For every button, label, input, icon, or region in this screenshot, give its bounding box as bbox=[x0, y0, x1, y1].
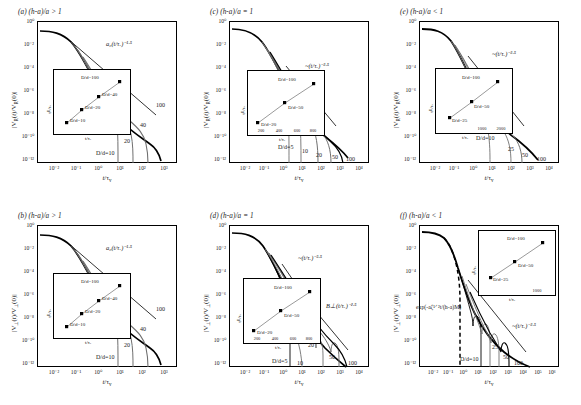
panel-e-ytick-0: 10⁰ bbox=[395, 18, 416, 24]
panel-e-inset-point-0: D/d=25 bbox=[452, 118, 467, 123]
panel-c-ytick-6: 10⁻¹² bbox=[205, 156, 226, 162]
panel-a-xtick-3: 10¹ bbox=[109, 165, 131, 171]
panel-f-plot: D/d=25 D/d=50 D/d=100 τᴰ/τᵥ t/τᵥ 1000 ex… bbox=[419, 225, 559, 367]
panel-b-power-label: a₀(t/τᵥ)⁻¹·⁵ bbox=[106, 244, 132, 252]
panel-c-plot: D/d=20 D/d=50 D/d=100 τᴰ/τᵥ t/τᵥ 200 400… bbox=[229, 21, 369, 163]
panel-e-inset-xtick-0: 1000 bbox=[474, 126, 490, 131]
panel-d-inset-xtick-0: 200 bbox=[250, 336, 264, 341]
panel-e-xtick-6: 10⁴ bbox=[538, 165, 560, 171]
panel-c-inset-xtick-2: 600 bbox=[290, 128, 304, 133]
panel-b-plot: D/d=10 D/d=20 D/d=40 D/d=100 τᴰ/τᵥ t/τᵥ … bbox=[37, 225, 177, 367]
panel-a-inset-point-3: D/d=100 bbox=[81, 75, 99, 80]
panel-a-inset-point-2: D/d=40 bbox=[102, 92, 117, 97]
panel-d-ylabel: |V⊥(t)/V⊥(0)| bbox=[202, 294, 210, 332]
panel-a-inset-xlabel: t/τᵥ bbox=[85, 136, 91, 141]
panel-b-inset-ylabel: τᴰ/τᵥ bbox=[47, 309, 52, 318]
panel-c-curve-label-4: 100 bbox=[346, 156, 355, 162]
panel-c-inset-point-0: D/d=20 bbox=[261, 122, 276, 127]
panel-a-ytick-5: 10⁻¹⁰ bbox=[13, 133, 34, 139]
panel-e-ytick-1: 10⁻² bbox=[395, 41, 416, 47]
panel-a-curve-label-3: 100 bbox=[156, 102, 165, 108]
panel-a-ylabel: |VR(t)/VR(0)| bbox=[10, 92, 18, 128]
panel-f-power-label: ~(t/τᵥ)⁻²·⁵ bbox=[512, 322, 536, 330]
panel-a-xtick-5: 10³ bbox=[153, 165, 175, 171]
panel-a-xlabel: t/τv bbox=[82, 174, 132, 182]
panel-b-ytick-2: 10⁻⁴ bbox=[13, 268, 34, 274]
panel-d-ytick-5: 10⁻¹⁰ bbox=[205, 337, 226, 343]
panel-c-ytick-5: 10⁻¹⁰ bbox=[205, 133, 226, 139]
panel-b-curve-label-1: 20 bbox=[124, 342, 130, 348]
panel-f-inset: D/d=25 D/d=50 D/d=100 τᴰ/τᵥ t/τᵥ 1000 bbox=[478, 230, 556, 296]
panel-f-curve-label-3: 100 bbox=[514, 360, 523, 366]
panel-d-power-label-2: B⊥(t/τᵥ)⁻²·⁵ bbox=[326, 302, 357, 310]
panel-d-power-label: ~(t/τᵥ)⁻³·⁵ bbox=[298, 254, 322, 262]
panel-d-curve-label-0: D/d=5 bbox=[272, 358, 287, 364]
panel-a-xtick-2: 10⁰ bbox=[87, 165, 109, 171]
panel-d-curve-label-2: 20 bbox=[308, 342, 314, 348]
panel-c-xlabel: t/τv bbox=[274, 174, 324, 182]
panel-a-plot: D/d=10 D/d=20 D/d=40 D/d=100 τᴰ/τᵥ t/τᵥ … bbox=[37, 21, 177, 163]
panel-d-inset-xtick-3: 800 bbox=[302, 336, 316, 341]
panel-b-ylabel: |V⊥(t)/V⊥(0)| bbox=[10, 294, 18, 332]
panel-b-xtick-2: 10⁰ bbox=[87, 369, 109, 375]
panel-f-ytick-6: 10⁻¹² bbox=[395, 360, 416, 366]
panel-d-curve-label-1: 10 bbox=[297, 360, 303, 366]
panel-b-ytick-0: 10⁰ bbox=[13, 222, 34, 228]
panel-b-xtick-1: 10⁻¹ bbox=[65, 369, 87, 375]
panel-e-inset-point-1: D/d=50 bbox=[474, 104, 489, 109]
panel-f-inset-ylabel: τᴰ/τᵥ bbox=[472, 266, 477, 275]
panel-e-power-label: ~(t/τᵥ)⁻²·⁵ bbox=[492, 50, 516, 58]
panel-a-xtick-0: 10⁻² bbox=[43, 165, 65, 171]
panel-a-ytick-6: 10⁻¹² bbox=[13, 156, 34, 162]
panel-e-title: (e) (h-a)/a < 1 bbox=[400, 8, 443, 16]
panel-d-ytick-0: 10⁰ bbox=[205, 222, 226, 228]
panel-a-xtick-4: 10² bbox=[131, 165, 153, 171]
panel-a-ytick-2: 10⁻⁴ bbox=[13, 64, 34, 70]
panel-c-ylabel: |VR(t)/VR(0)| bbox=[202, 92, 210, 128]
panel-e-curve-label-2: 50 bbox=[522, 152, 528, 158]
panel-b-inset-point-3: D/d=100 bbox=[81, 279, 99, 284]
panel-f-inset-xlabel: t/τᵥ bbox=[509, 297, 515, 302]
panel-d-inset-point-0: D/d=20 bbox=[257, 330, 272, 335]
panel-b-title: (b) (h-a)/a > 1 bbox=[18, 212, 62, 220]
panel-d-xlabel: t/τv bbox=[274, 378, 324, 386]
panel-e-ytick-2: 10⁻⁴ bbox=[395, 64, 416, 70]
panel-c-inset-xtick-0: 200 bbox=[254, 128, 268, 133]
panel-e-inset-xlabel: t/τᵥ bbox=[462, 135, 468, 140]
panel-a-ytick-1: 10⁻² bbox=[13, 41, 34, 47]
panel-e-curve-label-0: D/d=10 bbox=[476, 135, 494, 141]
panel-c-curve-label-3: 50 bbox=[332, 154, 338, 160]
panel-d-inset-point-1: D/d=50 bbox=[284, 313, 299, 318]
panel-d-ytick-1: 10⁻² bbox=[205, 245, 226, 251]
panel-c-inset: D/d=20 D/d=50 D/d=100 τᴰ/τᵥ t/τᵥ 200 400… bbox=[247, 70, 325, 136]
panel-d-curve-label-4: 100 bbox=[348, 360, 357, 366]
panel-c-inset-point-1: D/d=50 bbox=[288, 105, 303, 110]
panel-b-ytick-5: 10⁻¹⁰ bbox=[13, 337, 34, 343]
panel-f-inset-point-0: D/d=25 bbox=[493, 277, 508, 282]
panel-a-inset-point-0: D/d=10 bbox=[70, 118, 85, 123]
panel-e-ytick-5: 10⁻¹⁰ bbox=[395, 133, 416, 139]
panel-b-xlabel: t/τv bbox=[82, 378, 132, 386]
panel-c-inset-xtick-3: 800 bbox=[306, 128, 320, 133]
panel-b-curve-label-2: 40 bbox=[140, 326, 146, 332]
panel-f-xtick-8: 10⁶ bbox=[542, 369, 562, 375]
panel-c-inset-xtick-1: 400 bbox=[272, 128, 286, 133]
panel-f-curve-label-1: 25 bbox=[492, 344, 498, 350]
panel-e-inset: D/d=25 D/d=50 D/d=100 τᴰ/τᵥ t/τᵥ 1000 20… bbox=[435, 68, 513, 134]
panel-b-inset-xlabel: t/τᵥ bbox=[85, 340, 91, 345]
panel-d-inset-ylabel: τᴰ/τᵥ bbox=[237, 314, 242, 323]
panel-b-ytick-1: 10⁻² bbox=[13, 245, 34, 251]
panel-c-curve-label-1: 10 bbox=[302, 148, 308, 154]
panel-b-inset-point-2: D/d=40 bbox=[102, 296, 117, 301]
panel-f-inset-point-1: D/d=50 bbox=[518, 263, 533, 268]
panel-c-power-label: ~(t/τᵥ)⁻²·⁵ bbox=[305, 62, 329, 70]
panel-d-plot: D/d=20 D/d=50 D/d=100 τᴰ/τᵥ t/τᵥ 200 400… bbox=[229, 225, 369, 367]
panel-a-curve-label-2: 40 bbox=[140, 122, 146, 128]
panel-f-exp-label: exp(-aζ¹ᐟ²t/(h-a)M) bbox=[416, 304, 461, 310]
figure-root: (a) (h-a)/a > 1 D/d=10 D/d=20 D/ bbox=[0, 0, 581, 405]
panel-e-plot: D/d=25 D/d=50 D/d=100 τᴰ/τᵥ t/τᵥ 1000 20… bbox=[419, 21, 559, 163]
panel-c-inset-point-2: D/d=100 bbox=[278, 77, 296, 82]
panel-b-inset-point-0: D/d=10 bbox=[70, 322, 85, 327]
panel-e-ytick-6: 10⁻¹² bbox=[395, 156, 416, 162]
panel-a-curve-label-1: 20 bbox=[124, 138, 130, 144]
